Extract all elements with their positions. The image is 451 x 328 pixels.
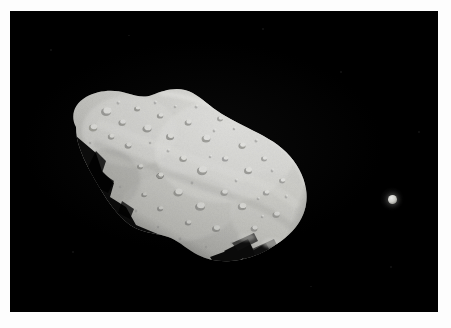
screenshot-root [0,0,451,328]
photo-frame [10,11,438,312]
asteroid [10,11,438,312]
asteroid-surface [50,71,340,291]
moon-body [388,195,397,204]
